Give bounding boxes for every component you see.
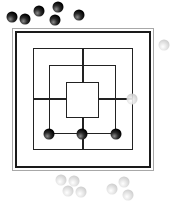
black-reserve-piece[interactable] (7, 12, 18, 23)
white-reserve-piece[interactable] (107, 184, 118, 195)
black-reserve-piece[interactable] (34, 6, 45, 17)
white-reserve-piece[interactable] (76, 187, 87, 198)
white-reserve-piece[interactable] (123, 190, 134, 201)
board-line-top (82, 48, 84, 82)
white-reserve-piece[interactable] (69, 176, 80, 187)
black-piece-on-board[interactable] (44, 129, 55, 140)
black-reserve-piece[interactable] (50, 15, 61, 26)
white-reserve-piece[interactable] (63, 186, 74, 197)
black-piece-on-board[interactable] (111, 129, 122, 140)
white-reserve-piece[interactable] (119, 177, 130, 188)
white-reserve-piece[interactable] (56, 175, 67, 186)
white-reserve-piece[interactable] (159, 40, 170, 51)
black-reserve-piece[interactable] (53, 2, 64, 13)
black-reserve-piece[interactable] (74, 10, 85, 21)
black-piece-on-board[interactable] (77, 129, 88, 140)
white-piece-on-board[interactable] (127, 94, 138, 105)
board-line-left (33, 98, 66, 100)
black-reserve-piece[interactable] (20, 14, 31, 25)
board-square-inner (66, 82, 99, 118)
